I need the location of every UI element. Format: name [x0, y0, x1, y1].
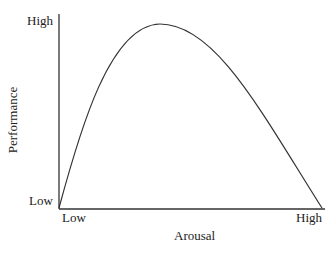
performance-curve [59, 24, 322, 208]
y-tick-low: Low [29, 193, 53, 209]
x-tick-low: Low [62, 210, 86, 226]
x-tick-high: High [296, 210, 322, 226]
y-tick-high: High [27, 13, 53, 29]
chart-plot [0, 0, 336, 256]
y-axis-label: Performance [5, 87, 21, 153]
x-axis-label: Arousal [174, 228, 215, 244]
